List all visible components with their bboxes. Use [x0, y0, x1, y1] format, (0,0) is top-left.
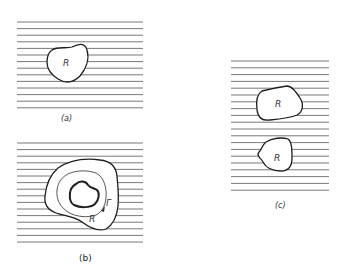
- figure-canvas: R (a) Γ R (b): [0, 0, 341, 270]
- region-b-label: R: [89, 214, 95, 224]
- panel-c-caption: (c): [275, 201, 286, 210]
- region-a-label: R: [63, 58, 69, 68]
- region-c-top-label: R: [275, 99, 281, 109]
- panel-b: Γ R (b): [17, 143, 143, 263]
- panel-a-caption: (a): [61, 114, 72, 123]
- panel-a: R (a): [17, 22, 143, 123]
- region-c-bottom-label: R: [274, 153, 280, 163]
- panel-c: R R (c): [231, 61, 329, 210]
- panel-b-caption: (b): [79, 253, 92, 263]
